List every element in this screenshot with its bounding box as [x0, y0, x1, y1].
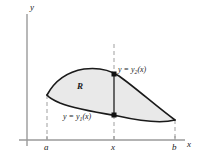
tick-label-x: x — [111, 143, 115, 152]
slice-endpoint-upper-dot — [112, 72, 117, 77]
upper-curve-label-suffix: (x) — [137, 65, 146, 74]
math-figure-region-between-curves: y x a x b R y = y2(x) y = y1(x) — [0, 0, 199, 164]
tick-label-a: a — [44, 143, 49, 152]
figure-canvas — [0, 0, 199, 164]
y-axis-label: y — [30, 3, 34, 12]
x-axis-label: x — [187, 140, 191, 149]
lower-curve-label-suffix: (x) — [82, 112, 91, 121]
upper-curve-label-prefix: y = y — [118, 65, 135, 74]
lower-curve-label-prefix: y = y — [63, 112, 80, 121]
region-label-R: R — [77, 82, 83, 91]
tick-label-b: b — [172, 143, 177, 152]
upper-curve-label: y = y2(x) — [118, 66, 146, 75]
lower-curve-label: y = y1(x) — [63, 113, 91, 122]
slice-endpoint-lower-dot — [112, 113, 117, 118]
